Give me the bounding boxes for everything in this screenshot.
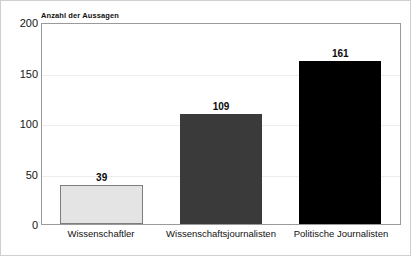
bar-value-label: 109: [213, 102, 230, 112]
y-axis-tick-label: 200: [4, 18, 38, 29]
bar: 161: [299, 61, 381, 224]
x-axis: WissenschaftlerWissenschaftsjournalisten…: [41, 229, 401, 249]
bar-value-label: 161: [332, 49, 349, 59]
x-axis-tick-label: Politische Journalisten: [294, 229, 389, 239]
y-axis-tick-label: 50: [4, 169, 38, 180]
y-axis-tick-label: 0: [4, 220, 38, 231]
bar: 39: [60, 185, 142, 224]
y-axis-tick-label: 100: [4, 119, 38, 130]
y-axis: 050100150200: [1, 1, 38, 256]
y-axis-tick-label: 150: [4, 68, 38, 79]
bar-chart: 050100150200 Anzahl der Aussagen 3910916…: [0, 0, 411, 256]
y-axis-title: Anzahl der Aussagen: [41, 11, 119, 20]
bar: 109: [180, 114, 262, 224]
bar-value-label: 39: [96, 173, 107, 183]
bar-series: 39109161: [42, 24, 400, 224]
x-axis-tick-label: Wissenschaftler: [67, 229, 134, 239]
x-axis-tick-label: Wissenschaftsjournalisten: [166, 229, 276, 239]
plot-area: 39109161: [41, 23, 401, 225]
